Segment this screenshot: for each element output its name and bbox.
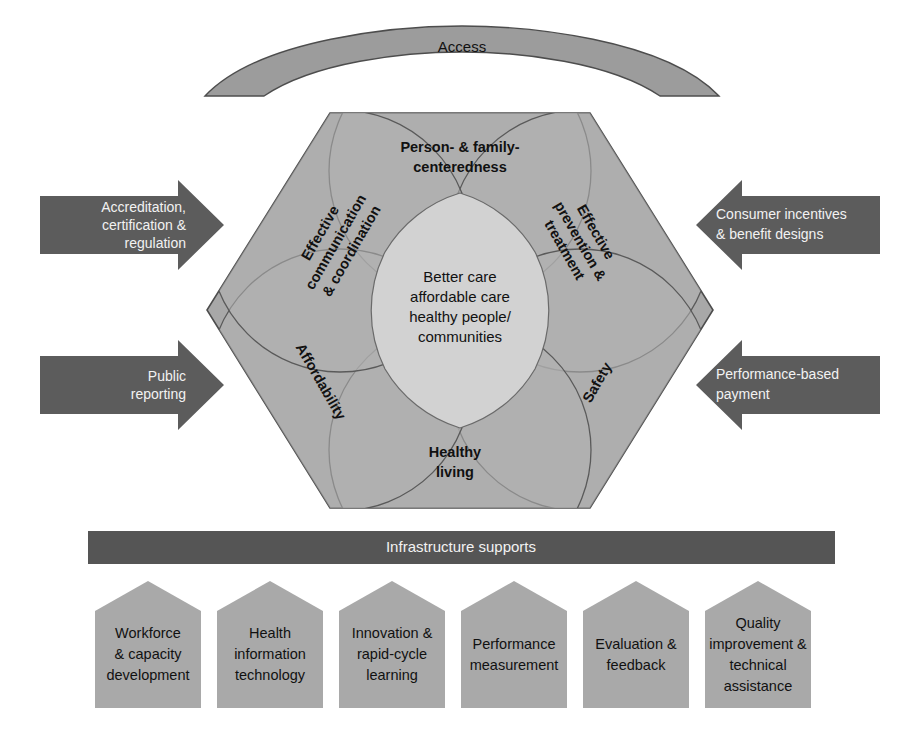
support-pillars: Workforce & capacity development Health … — [95, 581, 811, 708]
left-arrow-public-reporting: Public reporting — [40, 340, 224, 430]
access-label: Access — [438, 38, 486, 55]
support-2-line-1: Health — [249, 625, 291, 641]
center-line-1: Better care — [423, 268, 496, 285]
support-6-line-4: assistance — [724, 678, 793, 694]
petal-healthy-line-2: living — [436, 464, 474, 480]
support-1-line-2: & capacity — [115, 646, 183, 662]
support-pillar-performance-measurement: Performance measurement — [461, 581, 567, 708]
petal-person-line-1: Person- & family- — [400, 139, 519, 155]
left-arrow-public-reporting-line-1: Public — [148, 368, 186, 384]
support-pillar-quality-improvement-technical-assistance: Quality improvement & technical assistan… — [705, 581, 811, 708]
support-pillar-evaluation-feedback: Evaluation & feedback — [583, 581, 689, 708]
left-arrow-accreditation: Accreditation, certification & regulatio… — [40, 180, 224, 270]
support-6-line-2: improvement & — [709, 636, 807, 652]
support-1-line-3: development — [106, 667, 189, 683]
infrastructure-bar-label: Infrastructure supports — [386, 538, 536, 555]
petal-person-line-2: centeredness — [413, 159, 507, 175]
right-arrow-consumer-line-2: & benefit designs — [716, 226, 823, 242]
support-3-line-3: learning — [366, 667, 418, 683]
support-5-line-2: feedback — [607, 657, 667, 673]
support-pillar-shape-1 — [95, 581, 201, 708]
left-arrow-accreditation-line-2: certification & — [102, 217, 187, 233]
center-line-2: affordable care — [410, 288, 510, 305]
right-arrow-performance-based-payment: Performance-based payment — [696, 340, 880, 430]
support-pillar-shape-2 — [217, 581, 323, 708]
support-3-line-2: rapid-cycle — [357, 646, 427, 662]
hexagon-group: Better care affordable care healthy peop… — [207, 40, 713, 581]
right-arrow-consumer-line-1: Consumer incentives — [716, 206, 847, 222]
access-band: Access — [205, 26, 719, 96]
support-1-line-1: Workforce — [115, 625, 181, 641]
support-6-line-3: technical — [729, 657, 786, 673]
left-arrow-accreditation-line-1: Accreditation, — [101, 199, 186, 215]
left-arrow-public-reporting-line-2: reporting — [131, 386, 186, 402]
left-arrow-accreditation-line-3: regulation — [125, 235, 187, 251]
support-2-line-3: technology — [235, 667, 306, 683]
diagram-root: Access Better care affordable care — [0, 0, 910, 732]
center-line-3: healthy people/ — [409, 308, 512, 325]
petal-healthy-line-1: Healthy — [429, 444, 481, 460]
center-line-4: communities — [418, 328, 502, 345]
right-arrow-consumer-incentives: Consumer incentives & benefit designs — [696, 180, 880, 270]
support-pillar-shape-3 — [339, 581, 445, 708]
support-2-line-2: information — [234, 646, 306, 662]
support-4-line-1: Performance — [472, 636, 555, 652]
right-arrow-performance-line-2: payment — [716, 386, 770, 402]
support-4-line-2: measurement — [470, 657, 559, 673]
infrastructure-bar: Infrastructure supports — [88, 531, 835, 564]
support-6-line-1: Quality — [735, 615, 781, 631]
support-pillar-health-information-technology: Health information technology — [217, 581, 323, 708]
support-5-line-1: Evaluation & — [595, 636, 677, 652]
support-pillar-innovation-rapid-cycle-learning: Innovation & rapid-cycle learning — [339, 581, 445, 708]
right-arrow-performance-line-1: Performance-based — [716, 366, 839, 382]
support-pillar-workforce-capacity-development: Workforce & capacity development — [95, 581, 201, 708]
support-3-line-1: Innovation & — [352, 625, 433, 641]
framework-diagram: Access Better care affordable care — [0, 0, 910, 732]
